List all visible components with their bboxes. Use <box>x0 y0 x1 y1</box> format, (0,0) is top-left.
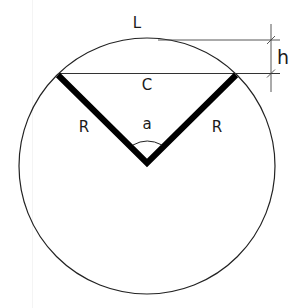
radius-right-label: R <box>212 120 222 135</box>
diagram-canvas: L h C R a R <box>0 0 306 308</box>
angle-label: a <box>142 117 151 132</box>
arc-length-label: L <box>133 16 141 31</box>
chord-label: C <box>142 78 152 93</box>
radius-left-label: R <box>79 120 89 135</box>
angle-arc <box>133 141 162 145</box>
height-label: h <box>277 48 289 67</box>
geometry-figure <box>0 0 306 308</box>
